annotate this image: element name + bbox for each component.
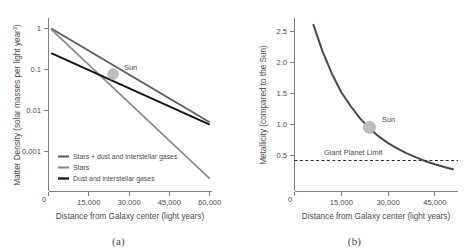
panel-a-caption: (a) [0,235,237,247]
panel-b-ytick-label-3: 2.0 [276,58,287,67]
svg-text:Matter Density (solar masses p: Matter Density (solar masses per light y… [12,24,22,186]
panel-b-ytick-label-1: 1.0 [276,120,287,129]
panel-a-legend-label-1: Stars [73,164,90,171]
panel-b-sun-marker [363,121,375,133]
panel-a-y-ticks: 1 0.1 0.01 0.001 [22,24,49,156]
panel-b-y-ticks: 2.5 2.0 1.5 1.0 0.5 [276,27,294,160]
panel-a-xtick-label-1: 15,000 [77,198,100,207]
panel-a-legend-label-2: Dust and interstellar gases [73,175,155,183]
panel-b-y-axis-title: Metallicity (compared to the Sun) [259,45,268,165]
panel-a-y-axis-title-main: Matter Density (solar masses per light y… [13,30,22,186]
panel-a-xtick-label-3: 45,000 [158,198,181,207]
panel-a-sun-label: Sun [124,63,137,72]
panel-b-ytick-label-4: 2.5 [276,27,287,36]
panel-b-xtick-label-2: 30,000 [376,198,399,207]
panel-b-giant-planet-limit-label: Giant Planet Limit [324,148,382,157]
panel-a-xtick-label-0: 0 [42,195,46,204]
panel-b-x-axis-title: Distance from Galaxy center (light years… [302,212,451,221]
panel-a: 1 0.1 0.01 0.001 0 15,000 30,000 45,000 … [0,0,237,251]
panel-a-y-axis-title-close: ) [13,24,22,27]
panel-a-ytick-label-0: 1 [37,24,41,33]
panel-a-series-stars-plus-dust [51,29,210,123]
panel-a-ytick-label-2: 0.01 [26,106,41,115]
figure-container: 1 0.1 0.01 0.001 0 15,000 30,000 45,000 … [0,0,473,251]
panel-b-ytick-label-2: 1.5 [276,89,287,98]
panel-a-plot: 1 0.1 0.01 0.001 0 15,000 30,000 45,000 … [0,0,237,251]
panel-a-legend: Stars + dust and interstellar gases Star… [58,153,178,183]
panel-b-xtick-label-3: 45,000 [423,198,446,207]
panel-a-y-axis-title: Matter Density (solar masses per light y… [12,24,22,186]
panel-a-x-axis-title: Distance from Galaxy center (light years… [56,212,205,221]
panel-a-sun-marker [108,69,119,80]
panel-b-xtick-label-1: 15,000 [330,198,353,207]
panel-a-ytick-label-1: 0.1 [30,65,41,74]
panel-b-caption: (b) [236,235,473,247]
panel-b-sun-label: Sun [382,115,395,124]
panel-b-x-ticks: 0 15,000 30,000 45,000 [288,192,447,208]
panel-b-plot: 2.5 2.0 1.5 1.0 0.5 0 15,000 30,000 45,0… [236,0,473,251]
panel-b: 2.5 2.0 1.5 1.0 0.5 0 15,000 30,000 45,0… [236,0,473,251]
panel-a-xtick-label-4: 60,000 [198,198,221,207]
panel-b-xtick-label-0: 0 [288,195,292,204]
panel-b-ytick-label-0: 0.5 [276,151,287,160]
panel-a-ytick-label-3: 0.001 [22,147,41,156]
panel-a-xtick-label-2: 30,000 [117,198,140,207]
panel-a-legend-label-0: Stars + dust and interstellar gases [73,153,178,161]
panel-a-x-ticks: 0 15,000 30,000 45,000 60,000 [42,192,221,208]
